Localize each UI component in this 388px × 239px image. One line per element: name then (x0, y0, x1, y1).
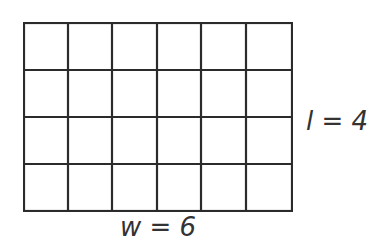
length-label: l = 4 (306, 108, 368, 134)
area-grid (23, 22, 293, 212)
width-label: w = 6 (120, 214, 196, 239)
